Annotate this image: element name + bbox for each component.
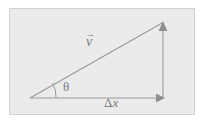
vector-v-line bbox=[30, 23, 163, 99]
vector-arrow-accent-icon: → bbox=[86, 30, 92, 39]
vector-v-label: →v bbox=[86, 35, 92, 49]
horizontal-arrowhead-icon bbox=[156, 94, 165, 103]
figure-frame-border: →v θ Δx bbox=[9, 8, 195, 115]
angle-theta-label: θ bbox=[63, 80, 69, 93]
delta-x-variable: x bbox=[112, 95, 118, 110]
delta-x-label: Δx bbox=[104, 96, 118, 109]
vector-diagram-canvas bbox=[10, 9, 195, 115]
figure-root: →v θ Δx bbox=[0, 0, 203, 124]
